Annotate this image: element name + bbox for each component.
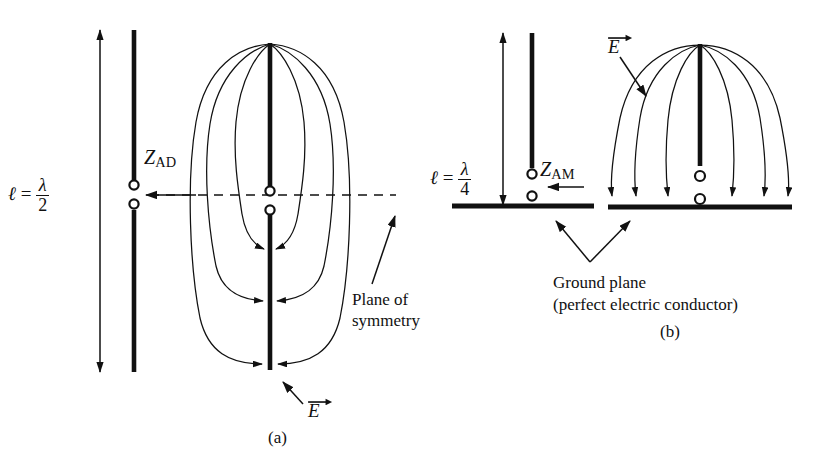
antenna-field-diagram bbox=[0, 0, 829, 460]
figure-background bbox=[0, 0, 829, 460]
length-equals-a: = bbox=[21, 183, 32, 204]
feed-terminal-upper-a-field bbox=[265, 186, 274, 195]
length-denominator-b: 4 bbox=[458, 180, 471, 199]
feed-terminal-lower-a bbox=[129, 199, 138, 208]
length-symbol-b: ℓ bbox=[430, 167, 438, 188]
panel-b-id: (b) bbox=[660, 322, 680, 342]
length-symbol-a: ℓ bbox=[8, 183, 16, 204]
impedance-base-b: Z bbox=[540, 158, 551, 180]
feed-terminal-upper-a bbox=[129, 180, 138, 189]
feed-terminal-upper-b bbox=[527, 169, 536, 178]
length-label-b: ℓ = λ 4 bbox=[430, 160, 471, 199]
feed-terminal-upper-b-field bbox=[695, 171, 705, 181]
length-numerator-b: λ bbox=[458, 160, 471, 180]
feed-terminal-lower-b-field bbox=[695, 194, 705, 204]
vector-arrow-icon-b bbox=[607, 33, 633, 42]
feed-terminal-lower-b bbox=[527, 191, 536, 200]
impedance-subscript-b: AM bbox=[551, 166, 575, 182]
plane-of-symmetry-line2: symmetry bbox=[352, 310, 420, 331]
ground-plane-label: Ground plane (perfect electric conductor… bbox=[553, 272, 738, 316]
length-numerator-a: λ bbox=[36, 176, 49, 196]
length-label-a: ℓ = λ 2 bbox=[8, 176, 49, 215]
ground-plane-line1: Ground plane bbox=[553, 272, 738, 294]
length-denominator-a: 2 bbox=[36, 196, 49, 215]
impedance-label-a: ZAD bbox=[144, 146, 176, 171]
plane-of-symmetry-label: Plane of symmetry bbox=[352, 289, 420, 332]
impedance-label-b: ZAM bbox=[540, 158, 575, 183]
panel-a-id: (a) bbox=[268, 428, 287, 448]
plane-of-symmetry-line1: Plane of bbox=[352, 289, 420, 310]
feed-terminal-lower-a-field bbox=[265, 205, 274, 214]
ground-plane-line2: (perfect electric conductor) bbox=[553, 294, 738, 316]
e-field-label-b: E bbox=[608, 36, 620, 58]
impedance-subscript-a: AD bbox=[155, 154, 176, 170]
length-equals-b: = bbox=[443, 167, 454, 188]
impedance-base-a: Z bbox=[144, 146, 155, 168]
e-field-label-a: E bbox=[308, 400, 320, 422]
vector-arrow-icon-a bbox=[307, 397, 333, 406]
